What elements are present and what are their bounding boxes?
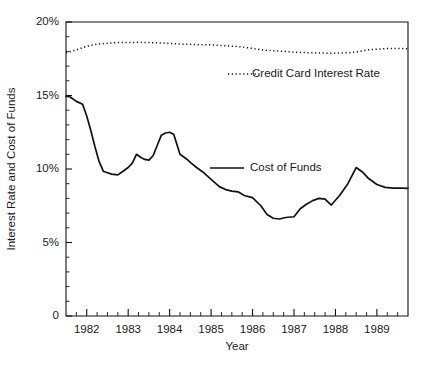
series-line-credit-card-interest-rate (66, 42, 408, 53)
y-tick-label-10%: 10% (36, 162, 59, 174)
x-tick-label-1987: 1987 (281, 323, 307, 335)
y-tick-label-15%: 15% (36, 89, 59, 101)
legend-label-cost-of-funds: Cost of Funds (250, 161, 322, 173)
x-tick-label-1984: 1984 (157, 323, 183, 335)
chart-canvas: 05%10%15%20%1982198319841985198619871988… (0, 0, 424, 366)
x-tick-label-1989: 1989 (364, 323, 390, 335)
x-tick-label-1988: 1988 (323, 323, 349, 335)
y-tick-label-0: 0 (53, 309, 59, 321)
x-tick-label-1986: 1986 (240, 323, 266, 335)
y-axis-title: Interest Rate and Cost of Funds (5, 87, 17, 250)
y-tick-label-20%: 20% (36, 15, 59, 27)
y-tick-label-5%: 5% (42, 236, 59, 248)
x-tick-label-1983: 1983 (115, 323, 141, 335)
legend-label-credit-card-interest-rate: Credit Card Interest Rate (252, 67, 380, 79)
x-tick-label-1982: 1982 (74, 323, 100, 335)
x-axis-title: Year (225, 340, 248, 352)
x-tick-label-1985: 1985 (198, 323, 224, 335)
series-line-cost-of-funds (66, 96, 408, 219)
chart-figure: 05%10%15%20%1982198319841985198619871988… (0, 0, 424, 366)
